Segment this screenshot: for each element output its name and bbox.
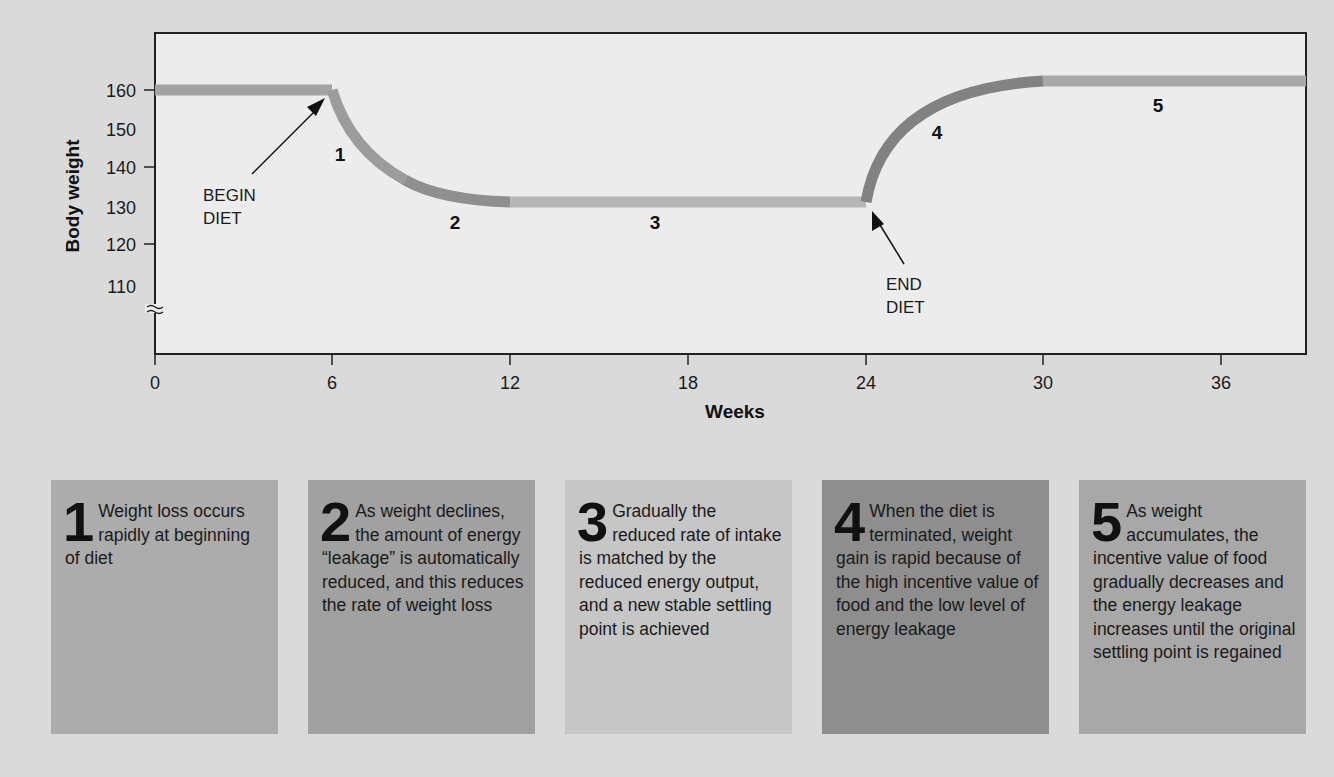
segment-label-3: 3	[650, 212, 661, 233]
explanation-box-5: 5 As weight accumulates, the incentive v…	[1079, 480, 1306, 734]
segment-label-4: 4	[932, 122, 943, 143]
explanation-boxes: 1 Weight loss occurs rapidly at beginnin…	[51, 480, 1314, 736]
x-tick-18: 18	[678, 373, 698, 393]
box-text: As weight accumulates, the incentive val…	[1093, 501, 1295, 662]
y-axis-label: Body weight	[62, 139, 83, 253]
box-number: 1	[63, 501, 94, 543]
y-axis: 160 150 140 130 120 110	[106, 81, 155, 297]
segment-label-2: 2	[450, 212, 461, 233]
x-tick-0: 0	[150, 373, 160, 393]
x-axis: 0 6 12 18 24 30 36	[150, 354, 1231, 393]
end-diet-line1: END	[886, 275, 922, 294]
box-number: 2	[320, 501, 351, 543]
axis-break-icon	[145, 304, 163, 314]
y-tick-140: 140	[106, 158, 136, 178]
y-tick-130: 130	[106, 198, 136, 218]
x-tick-36: 36	[1211, 373, 1231, 393]
explanation-box-2: 2 As weight declines, the amount of ener…	[308, 480, 535, 734]
box-number: 4	[834, 501, 865, 543]
box-number: 5	[1091, 501, 1122, 543]
y-tick-110: 110	[107, 277, 136, 297]
box-number: 3	[577, 501, 608, 543]
y-tick-150: 150	[106, 120, 136, 140]
explanation-box-1: 1 Weight loss occurs rapidly at beginnin…	[51, 480, 278, 734]
end-diet-line2: DIET	[886, 298, 925, 317]
weight-chart: 160 150 140 130 120 110 Body weight 0 6 …	[0, 0, 1334, 470]
segment-label-5: 5	[1153, 95, 1164, 116]
y-tick-160: 160	[106, 81, 136, 101]
box-text: When the diet is terminated, weight gain…	[836, 501, 1038, 639]
box-text: As weight declines, the amount of energy…	[322, 501, 523, 615]
segment-label-1: 1	[335, 144, 346, 165]
explanation-box-4: 4 When the diet is terminated, weight ga…	[822, 480, 1049, 734]
y-tick-120: 120	[106, 235, 136, 255]
x-tick-30: 30	[1033, 373, 1053, 393]
explanation-box-3: 3 Gradually the reduced rate of intake i…	[565, 480, 792, 734]
begin-diet-line1: BEGIN	[203, 186, 256, 205]
x-axis-label: Weeks	[705, 401, 765, 422]
x-tick-6: 6	[327, 373, 337, 393]
begin-diet-line2: DIET	[203, 209, 242, 228]
x-tick-12: 12	[500, 373, 520, 393]
box-text: Gradually the reduced rate of intake is …	[579, 501, 781, 639]
x-tick-24: 24	[856, 373, 876, 393]
